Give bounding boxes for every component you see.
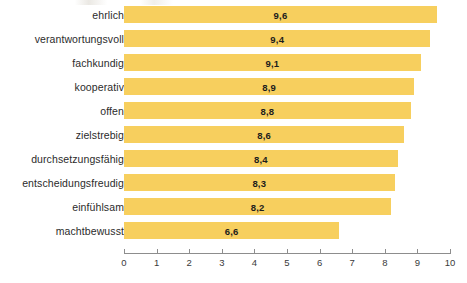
x-axis-tick [417,249,418,254]
category-label: verantwortungsvoll [35,33,124,45]
category-label: zielstrebig [76,129,124,141]
x-axis-tick-label: 1 [154,257,159,268]
category-label: ehrlich [92,9,124,21]
x-axis-tick-label: 4 [252,257,257,268]
bar-row: kooperativ8,9 [0,78,467,95]
bar-value-label: 6,6 [225,225,239,236]
bar-value-label: 8,4 [254,153,268,164]
x-axis-tick-label: 7 [350,257,355,268]
bar-value-label: 8,9 [262,81,276,92]
bar-value-label: 8,8 [261,105,275,116]
x-axis-tick [222,249,223,254]
bar-chart: ehrlich9,6verantwortungsvoll9,4fachkundi… [0,0,467,283]
bar-row: verantwortungsvoll9,4 [0,30,467,47]
x-axis-tick [287,249,288,254]
bar-value-label: 9,4 [270,33,284,44]
plot-area: ehrlich9,6verantwortungsvoll9,4fachkundi… [0,0,467,283]
x-axis-tick-label: 10 [445,257,456,268]
x-axis-tick-label: 8 [382,257,387,268]
bar-row: machtbewusst6,6 [0,222,467,239]
x-axis-tick-label: 3 [219,257,224,268]
bar-value-label: 8,2 [251,201,265,212]
x-axis-tick [352,249,353,254]
x-axis-tick [450,249,451,254]
bar-value-label: 8,6 [257,129,271,140]
x-axis-tick-label: 9 [415,257,420,268]
x-axis-tick-label: 6 [317,257,322,268]
category-label: durchsetzungsfähig [31,153,124,165]
bar-row: offen8,8 [0,102,467,119]
bar-row: fachkundig9,1 [0,54,467,71]
x-axis: 012345678910 [124,253,450,254]
x-axis-tick-label: 2 [187,257,192,268]
category-label: kooperativ [75,81,124,93]
category-label: machtbewusst [56,225,124,237]
category-label: einfühlsam [72,201,124,213]
bar-row: ehrlich9,6 [0,6,467,23]
bar-row: entscheidungsfreudig8,3 [0,174,467,191]
x-axis-tick-label: 0 [121,257,126,268]
x-axis-tick-label: 5 [284,257,289,268]
category-label: entscheidungsfreudig [22,177,124,189]
x-axis-tick [189,249,190,254]
bar-row: einfühlsam8,2 [0,198,467,215]
category-label: offen [100,105,124,117]
bar-row: durchsetzungsfähig8,4 [0,150,467,167]
x-axis-tick [385,249,386,254]
bar-value-label: 9,6 [274,9,288,20]
x-axis-tick [320,249,321,254]
category-label: fachkundig [72,57,124,69]
x-axis-tick [254,249,255,254]
bar-value-label: 9,1 [265,57,279,68]
bar-value-label: 8,3 [252,177,266,188]
x-axis-tick [124,249,125,254]
bar-row: zielstrebig8,6 [0,126,467,143]
x-axis-tick [157,249,158,254]
